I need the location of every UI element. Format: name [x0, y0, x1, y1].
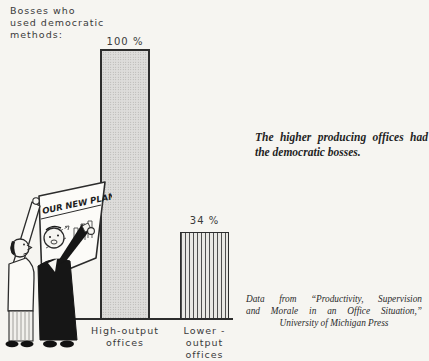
figure-caption-line2: the democratic bosses.: [255, 145, 428, 160]
chart-note-line1: Bosses who: [10, 5, 140, 17]
cartoon-bosses-illustration: OUR NEW PLAN: [0, 168, 112, 351]
bar-lower-output: [180, 232, 229, 320]
source-attribution-line1: Data from “Productivity, Supervision: [246, 293, 422, 305]
chart-note-line2: used democratic: [10, 17, 140, 29]
figure-caption-line1: The higher producing offices had: [255, 130, 428, 145]
source-attribution-line3: University of Michigan Press: [246, 317, 422, 329]
category-label-lower-output: Lower - output offices: [165, 325, 244, 361]
bar-value-label-high: 100 %: [97, 36, 153, 48]
source-attribution-line2: and Morale in an Office Situation,”: [246, 305, 422, 317]
category-label-line: Lower - output: [165, 325, 244, 349]
category-label-line: offices: [165, 349, 244, 361]
source-attribution: Data from “Productivity, Supervision and…: [246, 293, 422, 329]
cartoon-boss-left: [6, 198, 41, 347]
bar-value-label-lower: 34 %: [177, 215, 232, 227]
figure-caption: The higher producing offices had the dem…: [255, 130, 428, 160]
